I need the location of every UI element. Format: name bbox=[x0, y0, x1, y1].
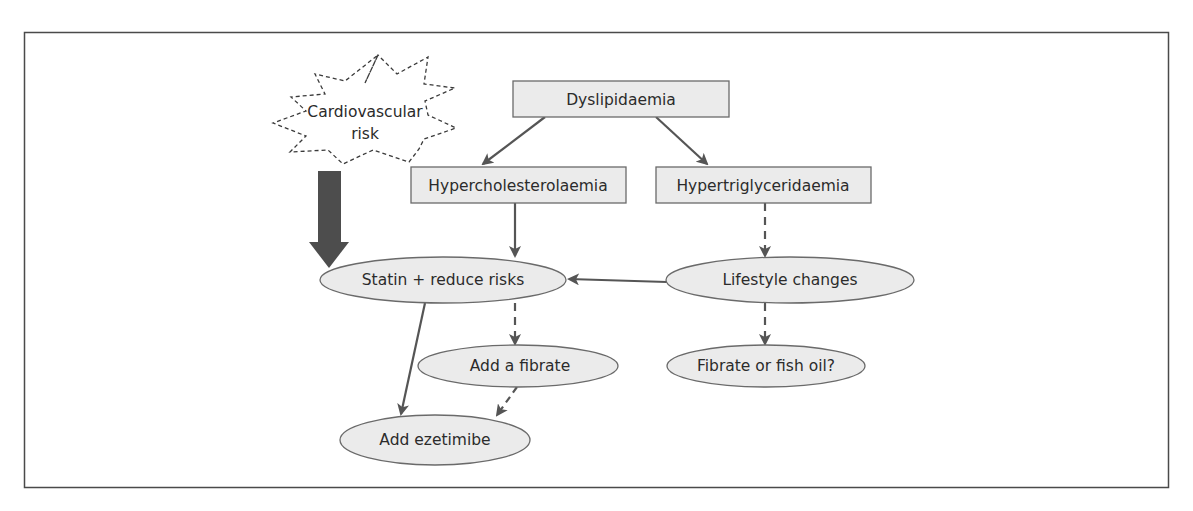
add-fibrate-label: Add a fibrate bbox=[470, 357, 570, 375]
lifestyle-changes-node: Lifestyle changes bbox=[666, 257, 914, 303]
hypercholesterolaemia-node: Hypercholesterolaemia bbox=[411, 167, 626, 203]
dyslipidaemia-node: Dyslipidaemia bbox=[513, 81, 729, 117]
flowchart-figure: Cardiovascular risk Dyslipidaemia Hyperc… bbox=[0, 0, 1193, 511]
fibrate-or-fish-oil-label: Fibrate or fish oil? bbox=[697, 357, 835, 375]
statin-label: Statin + reduce risks bbox=[362, 271, 525, 289]
lifestyle-changes-label: Lifestyle changes bbox=[722, 271, 857, 289]
cardiovascular-risk-label-line2: risk bbox=[351, 125, 379, 143]
hypertriglyceridaemia-node: Hypertriglyceridaemia bbox=[656, 167, 871, 203]
hypertriglyceridaemia-label: Hypertriglyceridaemia bbox=[676, 177, 849, 195]
hypercholesterolaemia-label: Hypercholesterolaemia bbox=[428, 177, 607, 195]
fibrate-or-fish-oil-node: Fibrate or fish oil? bbox=[667, 345, 865, 387]
cardiovascular-risk-label: Cardiovascular bbox=[307, 103, 423, 121]
add-ezetimibe-node: Add ezetimibe bbox=[340, 415, 530, 465]
add-ezetimibe-label: Add ezetimibe bbox=[379, 431, 490, 449]
add-fibrate-node: Add a fibrate bbox=[418, 345, 618, 387]
statin-node: Statin + reduce risks bbox=[320, 257, 566, 303]
dyslipidaemia-label: Dyslipidaemia bbox=[566, 91, 676, 109]
